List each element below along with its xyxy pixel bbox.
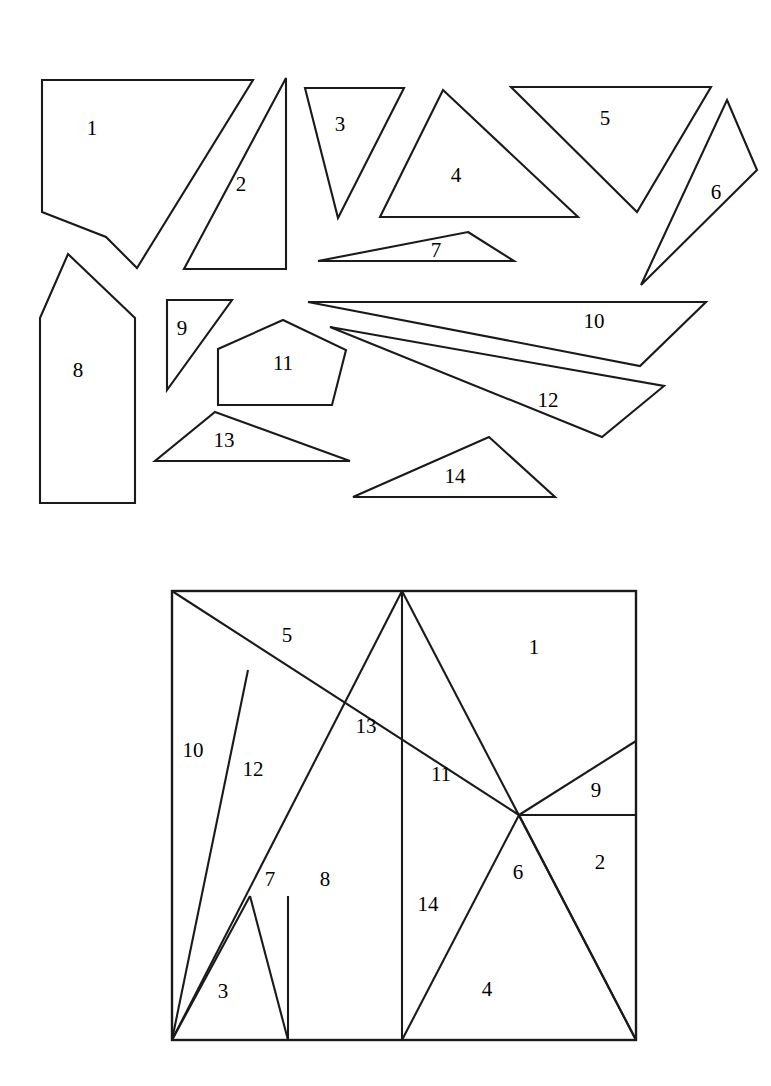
piece-label-13: 13 (214, 428, 235, 452)
piece-label-2: 2 (236, 172, 247, 196)
square-piece-label-6: 6 (513, 860, 524, 884)
puzzle-piece-8[interactable] (40, 254, 135, 503)
square-piece-label-13: 13 (356, 714, 377, 738)
puzzle-piece-7[interactable] (318, 232, 514, 261)
dissection-figure: 1234567891011121314 5113101211927861434 (0, 0, 771, 1086)
square-piece-label-7: 7 (265, 867, 276, 891)
piece-label-3: 3 (335, 112, 346, 136)
square-piece-label-4: 4 (482, 977, 493, 1001)
square-piece-label-1: 1 (529, 635, 540, 659)
piece-label-6: 6 (711, 180, 722, 204)
piece-label-1: 1 (87, 116, 98, 140)
square-piece-label-8: 8 (320, 867, 331, 891)
assembled-square-group: 5113101211927861434 (172, 591, 636, 1040)
square-piece-label-9: 9 (591, 778, 602, 802)
piece-label-7: 7 (431, 238, 442, 262)
dissection-canvas: 1234567891011121314 5113101211927861434 (0, 0, 771, 1086)
square-piece-label-10: 10 (183, 738, 204, 762)
scattered-pieces-group: 1234567891011121314 (40, 78, 757, 503)
square-piece-label-12: 12 (243, 757, 264, 781)
piece-label-8: 8 (73, 358, 84, 382)
puzzle-piece-13[interactable] (155, 412, 350, 461)
piece-label-5: 5 (600, 106, 611, 130)
piece-label-14: 14 (445, 464, 467, 488)
piece-label-9: 9 (177, 316, 188, 340)
piece-label-12: 12 (538, 388, 559, 412)
piece-label-11: 11 (273, 351, 293, 375)
piece-label-4: 4 (451, 163, 462, 187)
square-piece-label-2: 2 (595, 850, 606, 874)
square-piece-label-3: 3 (218, 979, 229, 1003)
square-piece-label-14: 14 (418, 892, 440, 916)
piece-label-10: 10 (584, 309, 605, 333)
square-piece-label-5: 5 (282, 623, 293, 647)
square-piece-label-11: 11 (431, 762, 451, 786)
